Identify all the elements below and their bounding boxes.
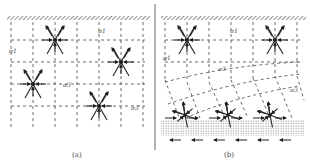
diagram-canvas: σ1 σ1 σ3 σ3 (a) xyxy=(0,0,310,162)
label-sigma1-top-b: σ1 xyxy=(230,27,238,34)
stress-field-figure: σ1 σ1 σ3 σ3 (a) xyxy=(0,0,310,162)
panel-b: σ1 σ1 σ3 σ3 (b) xyxy=(161,16,306,159)
stress-crosses-b xyxy=(170,26,288,130)
label-sigma3-right-a: σ3 xyxy=(131,104,139,111)
caption-b: (b) xyxy=(224,151,234,159)
caption-a: (a) xyxy=(72,151,82,159)
rigid-boundary-a xyxy=(7,16,150,20)
basal-layer xyxy=(161,120,304,136)
grid-a xyxy=(11,22,145,130)
label-sigma1-left-a: σ1 xyxy=(9,47,17,54)
label-sigma1-left-b: σ1 xyxy=(163,54,171,61)
label-sigma3-mid-a: σ3 xyxy=(63,81,71,88)
panel-a: σ1 σ1 σ3 σ3 (a) xyxy=(7,16,150,159)
label-sigma3-right-b: σ3 xyxy=(290,86,298,93)
grid-b xyxy=(165,22,304,120)
rigid-boundary-b xyxy=(161,16,306,20)
label-sigma3-mid-b: σ3 xyxy=(218,65,226,72)
label-sigma1-top-a: σ1 xyxy=(98,27,106,34)
